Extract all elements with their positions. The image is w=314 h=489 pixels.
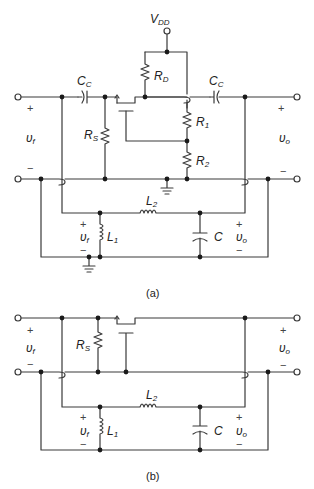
coupling-capacitor-in xyxy=(78,91,105,103)
label-vf-filter: υf xyxy=(80,424,90,439)
wire xyxy=(145,97,210,103)
sign-plus: + xyxy=(278,102,284,114)
output-terminal-minus xyxy=(294,369,300,375)
wire xyxy=(62,97,100,213)
vdd-terminal xyxy=(164,28,170,34)
wire xyxy=(200,97,245,213)
label-vo-out: υo xyxy=(279,341,291,356)
panel-a: VDD CC CC RD RS R1 R2 L2 L1 C + υf − + υ… xyxy=(15,12,300,299)
wire xyxy=(41,372,268,450)
label-cc-out: CC xyxy=(209,74,224,89)
panel-b: RS L2 L1 C + υf − + υo − + υf − + υo − (… xyxy=(15,315,300,482)
input-terminal-minus xyxy=(15,176,21,182)
label-c: C xyxy=(214,230,223,244)
sign-minus: − xyxy=(236,438,242,450)
label-vo-filter: υo xyxy=(236,424,248,439)
caption-b: (b) xyxy=(146,470,159,482)
label-vf-in: υf xyxy=(26,131,36,146)
resistor-rs xyxy=(101,97,109,179)
gate-wire xyxy=(126,111,187,141)
caption-a: (a) xyxy=(146,287,159,299)
label-vo-filter: υo xyxy=(236,230,248,245)
label-c: C xyxy=(214,424,223,438)
label-rd: RD xyxy=(154,69,169,84)
sign-minus: − xyxy=(80,438,86,450)
resistor-r1 xyxy=(183,103,191,141)
sign-plus: + xyxy=(236,411,242,423)
label-vdd: VDD xyxy=(150,12,170,27)
sign-plus: + xyxy=(80,218,86,230)
label-r1: R1 xyxy=(196,115,209,130)
label-vf-in: υf xyxy=(26,341,36,356)
label-cc-in: CC xyxy=(77,74,92,89)
sign-minus: − xyxy=(236,244,242,256)
resistor-r2 xyxy=(183,141,191,179)
sign-plus: + xyxy=(27,324,33,336)
label-rs: RS xyxy=(84,128,99,143)
sign-minus: − xyxy=(27,162,33,174)
mosfet-channel xyxy=(117,97,145,103)
sign-plus: + xyxy=(236,218,242,230)
label-r2: R2 xyxy=(196,154,210,169)
label-vf-filter: υf xyxy=(80,230,90,245)
sign-plus: + xyxy=(80,411,86,423)
capacitor-c xyxy=(193,213,207,257)
input-terminal-minus xyxy=(15,369,21,375)
capacitor-c xyxy=(193,407,207,450)
sign-minus: − xyxy=(80,244,86,256)
label-l1: L1 xyxy=(107,230,118,245)
output-terminal-plus xyxy=(294,94,300,100)
resistor-rd xyxy=(141,52,149,97)
sign-minus: − xyxy=(280,165,286,177)
wire xyxy=(62,318,100,407)
input-terminal-plus xyxy=(15,315,21,321)
label-l2: L2 xyxy=(146,388,158,403)
inductor-l1 xyxy=(100,407,103,450)
label-rs: RS xyxy=(76,338,91,353)
sign-minus: − xyxy=(280,359,286,371)
sign-minus: − xyxy=(27,358,33,370)
wire xyxy=(200,318,245,407)
inductor-l1 xyxy=(100,213,103,257)
output-terminal-plus xyxy=(294,315,300,321)
sign-plus: + xyxy=(280,324,286,336)
resistor-rs xyxy=(94,318,102,372)
label-l2: L2 xyxy=(146,194,158,209)
sign-plus: + xyxy=(27,102,33,114)
circuit-figure: VDD CC CC RD RS R1 R2 L2 L1 C + υf − + υ… xyxy=(0,0,314,489)
mosfet-gate xyxy=(119,333,133,372)
inductor-l2 xyxy=(100,210,200,213)
output-terminal-minus xyxy=(294,176,300,182)
inductor-l2 xyxy=(100,404,200,407)
input-terminal-plus xyxy=(15,94,21,100)
wire xyxy=(41,179,268,257)
label-vo-out: υo xyxy=(279,131,291,146)
label-l1: L1 xyxy=(107,424,118,439)
